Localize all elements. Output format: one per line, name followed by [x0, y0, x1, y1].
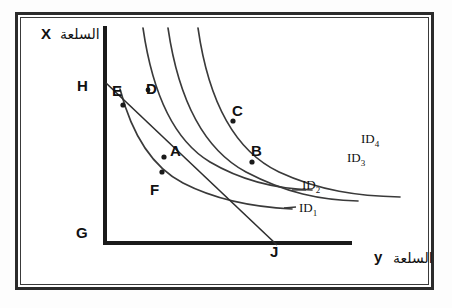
figure-canvas: السلعة X السلعة y G H J A B C D E F ID1 …: [0, 0, 452, 308]
curve-label-ID2: ID2: [302, 177, 320, 195]
point-label-F: F: [150, 181, 159, 198]
curve-ID3: [168, 28, 358, 201]
point-label-B: B: [251, 142, 262, 159]
curve-label-ID3: ID3: [347, 150, 365, 168]
x-axis-axis-label-arabic: السلعة: [393, 250, 433, 266]
point-marker-F: [159, 169, 164, 174]
axis-endpoint-label-J: J: [270, 243, 278, 260]
point-marker-E: [120, 102, 125, 107]
curve-label-ID1: ID1: [299, 200, 317, 218]
point-label-C: C: [232, 102, 243, 119]
point-marker-C: [230, 118, 235, 123]
point-label-D: D: [146, 80, 157, 97]
y-axis-axis-label-arabic: السلعة: [60, 26, 100, 42]
indifference-curve-plot: [20, 17, 429, 285]
curve-ID1: [120, 89, 292, 209]
point-label-A: A: [170, 142, 181, 159]
point-label-E: E: [112, 82, 122, 99]
curve-label-ID4-subscript: 4: [375, 139, 380, 149]
axis-endpoint-label-G: G: [76, 224, 88, 241]
x-axis-axis-label-symbol: y: [374, 248, 382, 265]
point-marker-A: [161, 154, 166, 159]
axis-endpoint-label-H: H: [77, 77, 88, 94]
curve-label-ID2-subscript: 2: [316, 185, 321, 195]
curve-label-ID3-subscript: 3: [361, 158, 366, 168]
point-marker-B: [249, 159, 254, 164]
curve-label-ID1-subscript: 1: [313, 208, 318, 218]
y-axis-axis-label-symbol: X: [41, 25, 51, 42]
leader-ID1: [284, 207, 296, 208]
curve-label-ID4: ID4: [361, 131, 379, 149]
curve-ID2: [143, 28, 312, 190]
